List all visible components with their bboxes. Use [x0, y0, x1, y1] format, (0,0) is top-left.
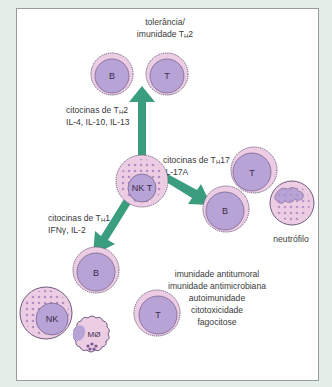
- cell-t-bottom: T: [134, 290, 180, 336]
- th1-label-line2: IFNγ, IL-2: [48, 225, 86, 235]
- macrophage-cell: MØ: [71, 316, 110, 352]
- cell-b-top-label: B: [109, 71, 115, 81]
- top-label-line1: tolerância/: [145, 17, 185, 27]
- neutrophil-label: neutrófilo: [273, 234, 309, 244]
- effect-item: fagocitose: [197, 317, 236, 327]
- cell-nk-bottom: NK: [20, 287, 72, 339]
- cell-b-top: B: [91, 53, 133, 95]
- effect-item: autoimunidade: [189, 293, 246, 303]
- th2-label-line2: IL-4, IL-10, IL-13: [66, 117, 130, 127]
- cell-t-top-label: T: [164, 71, 170, 81]
- top-label-line2: imunidade TH2: [137, 29, 193, 39]
- effect-item: citotoxicidade: [191, 305, 243, 315]
- th2-label-line1: citocinas de TH2: [66, 105, 128, 115]
- effects-list: imunidade antitumoral imunidade antimicr…: [168, 269, 266, 327]
- cell-b-bottom-label: B: [93, 268, 99, 278]
- th2-arrow: [129, 86, 155, 158]
- th17-label-line1: citocinas de TH17: [163, 155, 230, 165]
- cell-t-right: T: [231, 147, 277, 193]
- cell-nkt-label: NK T: [132, 183, 153, 193]
- cell-t-right-label: T: [249, 168, 255, 178]
- th1-label-line1: citocinas de TH1: [48, 213, 110, 223]
- effect-item: imunidade antitumoral: [175, 269, 260, 279]
- cell-b-bottom: B: [73, 247, 119, 293]
- cell-nk-label: NK: [46, 314, 59, 324]
- cell-nkt-center: NK T: [116, 155, 168, 207]
- effect-item: imunidade antimicrobiana: [168, 281, 266, 291]
- cell-t-top: T: [146, 53, 188, 95]
- neutrophil-cell: [270, 181, 314, 225]
- immune-diagram: tolerância/ imunidade TH2 B T citocinas …: [0, 0, 332, 387]
- cell-b-right: B: [203, 186, 249, 232]
- cell-t-bottom-label: T: [155, 310, 161, 320]
- th1-arrow: [93, 199, 131, 255]
- macrophage-label: MØ: [88, 330, 101, 339]
- cell-b-right-label: B: [222, 206, 228, 216]
